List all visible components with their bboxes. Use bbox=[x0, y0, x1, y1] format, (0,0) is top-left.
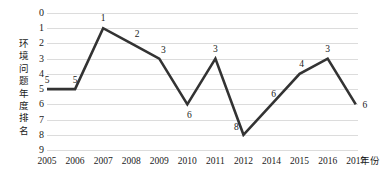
x-axis-tick-label: 2009 bbox=[150, 155, 169, 167]
y-axis-tick-label: 7 bbox=[31, 115, 44, 125]
data-point-label: 6 bbox=[362, 100, 367, 110]
x-axis-tick-label: 2006 bbox=[66, 155, 85, 167]
x-axis-tick-label: 2010 bbox=[178, 155, 197, 167]
data-point-label: 5 bbox=[45, 75, 50, 85]
gridline bbox=[47, 150, 358, 151]
x-axis-tick-label: 2011 bbox=[206, 155, 225, 167]
plot-area: 551236386436 bbox=[47, 13, 358, 150]
y-axis-tick-label: 0 bbox=[31, 8, 44, 18]
y-axis-title: 环境问题年度排名 bbox=[16, 38, 31, 137]
y-axis-tick-label: 5 bbox=[31, 84, 44, 94]
data-point-label: 8 bbox=[234, 122, 239, 132]
x-axis-tick-label: 2016 bbox=[318, 155, 337, 167]
data-point-label: 4 bbox=[299, 59, 304, 69]
line-chart: 环境问题年度排名 0123456789 551236386436 2005200… bbox=[0, 0, 385, 181]
y-axis-tick-label: 3 bbox=[31, 54, 44, 64]
data-point-label: 3 bbox=[325, 44, 330, 54]
x-axis-tick-label: 2007 bbox=[94, 155, 113, 167]
x-axis-title: 年份 bbox=[360, 155, 380, 167]
data-point-label: 5 bbox=[73, 75, 78, 85]
x-axis-tick-label: 2008 bbox=[122, 155, 141, 167]
y-axis-tick-label: 2 bbox=[31, 38, 44, 48]
data-point-label: 1 bbox=[101, 13, 106, 23]
y-axis-tick-label: 8 bbox=[31, 130, 44, 140]
x-axis-tick-label: 2012 bbox=[234, 155, 253, 167]
data-point-label: 2 bbox=[135, 29, 140, 39]
y-axis-tick-label: 4 bbox=[31, 69, 44, 79]
series-line bbox=[47, 13, 358, 150]
y-axis-tick-labels: 0123456789 bbox=[31, 0, 44, 181]
y-axis-tick-label: 1 bbox=[31, 23, 44, 33]
data-point-label: 3 bbox=[213, 44, 218, 54]
data-point-label: 6 bbox=[271, 89, 276, 99]
y-axis-tick-label: 6 bbox=[31, 99, 44, 109]
data-point-label: 6 bbox=[187, 110, 192, 120]
x-axis-tick-labels: 2005200620072008200920102011201220142015… bbox=[0, 155, 385, 171]
data-point-label: 3 bbox=[161, 45, 166, 55]
y-axis-tick-label: 9 bbox=[31, 145, 44, 155]
x-axis-tick-label: 2015 bbox=[290, 155, 309, 167]
x-axis-tick-label: 2014 bbox=[262, 155, 281, 167]
x-axis-tick-label: 2005 bbox=[38, 155, 57, 167]
